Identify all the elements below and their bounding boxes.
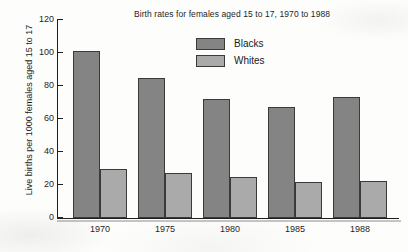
chart-legend: BlacksWhites xyxy=(196,36,265,70)
legend-label-blacks: Blacks xyxy=(234,38,263,49)
bar-blacks-1985 xyxy=(268,107,295,218)
y-axis-tick-mark xyxy=(57,118,63,119)
y-axis-tick-mark xyxy=(57,85,63,86)
bar-whites-1975 xyxy=(165,173,192,218)
x-axis-tick-label: 1980 xyxy=(203,224,257,234)
y-axis-tick-mark xyxy=(57,217,63,218)
bar-whites-1988 xyxy=(360,181,387,218)
bar-group xyxy=(333,20,387,218)
legend-swatch-whites xyxy=(196,55,225,67)
legend-swatch-blacks xyxy=(196,38,225,50)
y-axis-tick-mark xyxy=(57,151,63,152)
bar-blacks-1975 xyxy=(138,78,165,218)
y-axis-tick-mark xyxy=(57,19,63,20)
y-axis-tick-label: 100 xyxy=(39,47,54,57)
y-axis-line xyxy=(57,20,58,218)
legend-item-blacks: Blacks xyxy=(196,36,265,51)
y-axis-tick-label: 0 xyxy=(49,212,54,222)
bar-group xyxy=(268,20,322,218)
x-axis-tick-label: 1985 xyxy=(268,224,322,234)
x-axis-tick-label: 1970 xyxy=(73,224,127,234)
y-axis-tick-label: 60 xyxy=(44,113,54,123)
chart-title: Birth rates for females aged 15 to 17, 1… xyxy=(72,9,392,19)
x-axis-shadow xyxy=(57,220,401,222)
y-axis-tick-label: 20 xyxy=(44,179,54,189)
x-axis-tick-label: 1975 xyxy=(138,224,192,234)
y-axis-tick-label: 40 xyxy=(44,146,54,156)
legend-item-whites: Whites xyxy=(196,53,265,68)
bar-whites-1970 xyxy=(100,169,127,218)
bar-blacks-1970 xyxy=(73,51,100,218)
y-axis-tick-label: 120 xyxy=(39,14,54,24)
y-axis-tick-mark xyxy=(57,52,63,53)
y-axis-title: Live births per 1000 females aged 15 to … xyxy=(24,5,34,215)
bar-blacks-1988 xyxy=(333,97,360,218)
bar-whites-1985 xyxy=(295,182,322,218)
y-axis-tick-label: 80 xyxy=(44,80,54,90)
legend-label-whites: Whites xyxy=(234,55,265,66)
bar-whites-1980 xyxy=(230,177,257,218)
bar-blacks-1980 xyxy=(203,99,230,218)
y-axis-tick-mark xyxy=(57,184,63,185)
bar-group xyxy=(73,20,127,218)
bar-group xyxy=(138,20,192,218)
x-axis-tick-label: 1988 xyxy=(333,224,387,234)
chart-screenshot: Birth rates for females aged 15 to 17, 1… xyxy=(0,0,408,252)
